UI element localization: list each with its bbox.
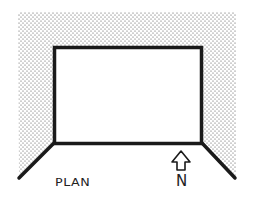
north-arrow-icon [172,151,190,170]
plan-label: PLAN [55,176,90,189]
room-outline [55,48,202,144]
plan-drawing [0,0,254,200]
north-label: N [176,172,187,190]
